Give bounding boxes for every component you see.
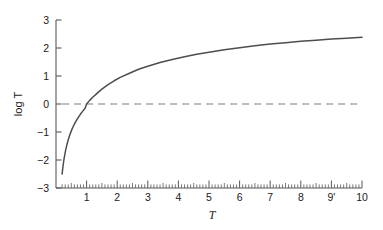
y-tick-label: 2 xyxy=(43,42,49,54)
x-tick-label: 7 xyxy=(267,191,273,203)
x-tick-label: 5 xyxy=(206,191,212,203)
y-axis-title: log T xyxy=(12,92,24,117)
y-tick-label: −3 xyxy=(37,182,49,194)
x-tick-label: 8 xyxy=(298,191,304,203)
y-tick-label: 0 xyxy=(43,98,49,110)
y-tick-label: −2 xyxy=(37,154,49,166)
x-tick-label: 9' xyxy=(327,191,335,203)
y-tick-label: −1 xyxy=(37,126,49,138)
plot-background xyxy=(0,0,383,230)
x-tick-label: 2 xyxy=(114,191,120,203)
x-tick-label: 10 xyxy=(356,191,368,203)
x-tick-label: 6 xyxy=(237,191,243,203)
x-tick-label: 4 xyxy=(175,191,181,203)
y-tick-label: 3 xyxy=(43,14,49,26)
x-tick-label: 3 xyxy=(145,191,151,203)
y-tick-label: 1 xyxy=(43,70,49,82)
chart-figure: 123456789'10 3210−1−2−3 T log T xyxy=(0,0,383,230)
log-t-plot: 123456789'10 3210−1−2−3 T log T xyxy=(0,0,383,230)
x-tick-label: 1 xyxy=(84,191,90,203)
